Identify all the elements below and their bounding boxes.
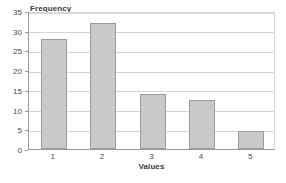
y-tick-label: 25: [13, 47, 22, 56]
y-tick-label: 20: [13, 67, 22, 76]
x-tick-label: 2: [100, 152, 104, 161]
bar-series: [29, 13, 274, 149]
x-tick-label: 3: [149, 152, 153, 161]
y-tick-label: 0: [18, 146, 22, 155]
bar: [41, 39, 67, 149]
bar: [140, 94, 166, 149]
bar: [238, 131, 264, 149]
x-tick-label: 5: [248, 152, 252, 161]
y-axis-tick-labels: 05101520253035: [0, 0, 28, 183]
bar: [90, 23, 116, 149]
y-tick-label: 10: [13, 106, 22, 115]
y-tick-label: 15: [13, 86, 22, 95]
x-axis-title: Values: [28, 162, 275, 171]
y-tick-mark: [25, 150, 28, 151]
x-tick-label: 4: [199, 152, 203, 161]
bar: [189, 100, 215, 149]
y-tick-label: 35: [13, 8, 22, 17]
frequency-bar-chart: Frequency 05101520253035 12345 Values: [0, 0, 286, 183]
y-tick-label: 30: [13, 27, 22, 36]
y-tick-label: 5: [18, 126, 22, 135]
plot-area: [28, 12, 275, 150]
x-tick-label: 1: [50, 152, 54, 161]
